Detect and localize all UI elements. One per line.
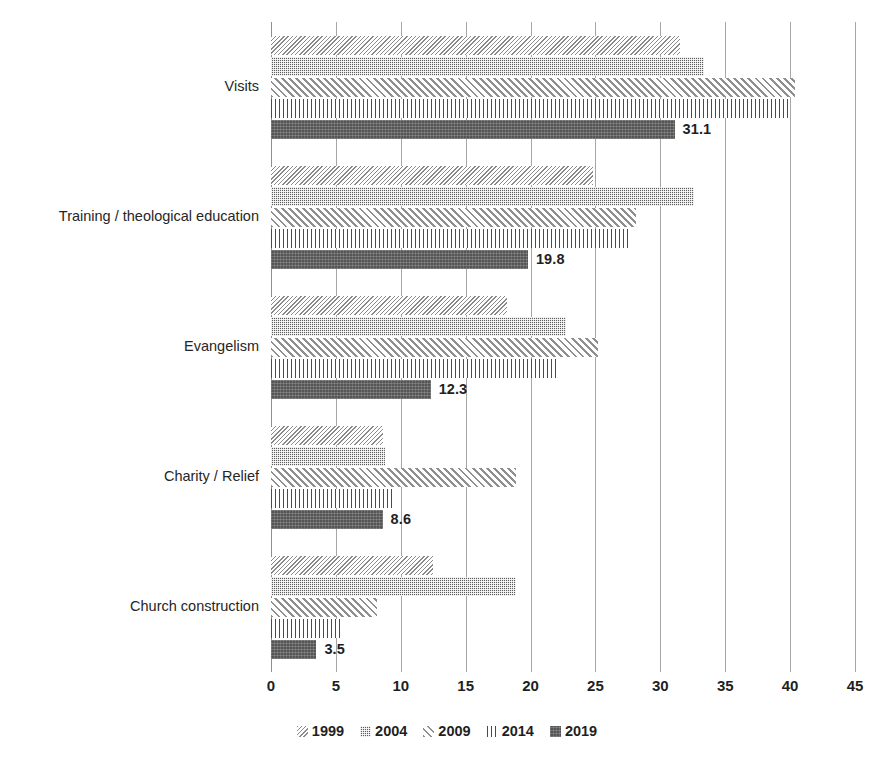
bar-row: [271, 317, 855, 336]
x-tick-label-15: 15: [457, 678, 474, 693]
bar-2009-4[interactable]: [271, 468, 516, 487]
bar-row: [271, 359, 855, 378]
bar-1999-2[interactable]: [271, 166, 593, 185]
bar-2004-4[interactable]: [271, 447, 385, 466]
hatch-2009-swatch: [423, 726, 434, 737]
bar-2004-3[interactable]: [271, 317, 566, 336]
bar-row: 3.5: [271, 640, 855, 659]
bar-group: 31.1: [271, 22, 855, 152]
bar-row: 31.1: [271, 120, 855, 139]
x-tick-label-0: 0: [267, 678, 275, 693]
bar-row: [271, 489, 855, 508]
data-label: 12.3: [439, 380, 468, 399]
bar-row: [271, 468, 855, 487]
bar-2014-4[interactable]: [271, 489, 393, 508]
x-tick-label-20: 20: [522, 678, 539, 693]
data-label: 8.6: [391, 510, 411, 529]
bar-2014-5[interactable]: [271, 619, 340, 638]
bar-row: 12.3: [271, 380, 855, 399]
bar-2004-5[interactable]: [271, 577, 516, 596]
category-label: Evangelism: [184, 339, 259, 354]
bar-row: [271, 426, 855, 445]
legend-label: 2009: [438, 724, 470, 739]
bar-row: [271, 99, 855, 118]
bar-2004-1[interactable]: [271, 57, 704, 76]
x-tick-label-45: 45: [847, 678, 864, 693]
legend-label: 2019: [565, 724, 597, 739]
bar-row: [271, 577, 855, 596]
legend-item-2014[interactable]: 2014: [487, 724, 534, 739]
bar-row: [271, 229, 855, 248]
data-label: 3.5: [324, 640, 344, 659]
data-label: 31.1: [683, 120, 712, 139]
bar-chart: VisitsTraining / theological educationEv…: [0, 0, 894, 764]
hatch-2004-swatch: [360, 726, 371, 737]
bar-row: [271, 619, 855, 638]
bar-row: 8.6: [271, 510, 855, 529]
bar-2014-3[interactable]: [271, 359, 559, 378]
bar-group: 8.6: [271, 412, 855, 542]
bar-1999-4[interactable]: [271, 426, 383, 445]
bar-1999-1[interactable]: [271, 36, 680, 55]
bar-1999-5[interactable]: [271, 556, 433, 575]
legend-item-1999[interactable]: 1999: [297, 724, 344, 739]
bar-row: [271, 296, 855, 315]
x-tick-label-40: 40: [782, 678, 799, 693]
x-tick-label-30: 30: [652, 678, 669, 693]
category-label: Charity / Relief: [164, 469, 259, 484]
legend-label: 2004: [375, 724, 407, 739]
bar-row: 19.8: [271, 250, 855, 269]
legend-label: 1999: [312, 724, 344, 739]
bar-group: 3.5: [271, 542, 855, 672]
legend-item-2004[interactable]: 2004: [360, 724, 407, 739]
bar-group: 12.3: [271, 282, 855, 412]
bar-row: [271, 166, 855, 185]
x-tick-label-10: 10: [392, 678, 409, 693]
category-label: Church construction: [130, 599, 259, 614]
hatch-1999-swatch: [297, 726, 308, 737]
bar-2014-2[interactable]: [271, 229, 628, 248]
bar-2019-2[interactable]: [271, 250, 528, 269]
bar-row: [271, 78, 855, 97]
bar-row: [271, 36, 855, 55]
bar-2019-1[interactable]: [271, 120, 675, 139]
bar-2004-2[interactable]: [271, 187, 694, 206]
hatch-2019-swatch: [550, 726, 561, 737]
category-axis: VisitsTraining / theological educationEv…: [0, 22, 271, 672]
data-label: 19.8: [536, 250, 565, 269]
x-tick-label-5: 5: [332, 678, 340, 693]
legend-item-2019[interactable]: 2019: [550, 724, 597, 739]
plot-area: 31.119.812.38.63.5: [271, 22, 855, 672]
legend-item-2009[interactable]: 2009: [423, 724, 470, 739]
category-label: Visits: [225, 79, 259, 94]
bar-2014-1[interactable]: [271, 99, 790, 118]
bar-row: [271, 57, 855, 76]
bar-2009-1[interactable]: [271, 78, 795, 97]
bar-2009-2[interactable]: [271, 208, 636, 227]
bar-row: [271, 187, 855, 206]
bar-2019-3[interactable]: [271, 380, 431, 399]
hatch-2014-swatch: [487, 726, 498, 737]
bar-row: [271, 208, 855, 227]
x-tick-label-35: 35: [717, 678, 734, 693]
bar-2009-5[interactable]: [271, 598, 377, 617]
x-axis-ticks: 051015202530354045: [271, 678, 855, 702]
bar-row: [271, 338, 855, 357]
x-tick-label-25: 25: [587, 678, 604, 693]
bar-row: [271, 447, 855, 466]
bar-2009-3[interactable]: [271, 338, 598, 357]
chart-legend: 19992004200920142019: [0, 724, 894, 739]
bar-group: 19.8: [271, 152, 855, 282]
bar-1999-3[interactable]: [271, 296, 507, 315]
bar-2019-4[interactable]: [271, 510, 383, 529]
gridline-45: [855, 22, 856, 672]
bar-2019-5[interactable]: [271, 640, 316, 659]
bar-row: [271, 598, 855, 617]
category-label: Training / theological education: [59, 209, 259, 224]
legend-label: 2014: [502, 724, 534, 739]
bar-row: [271, 556, 855, 575]
